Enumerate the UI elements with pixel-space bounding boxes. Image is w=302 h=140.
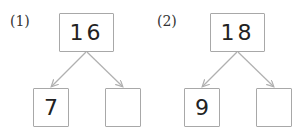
answer-box[interactable] [256, 88, 292, 127]
problem-1: (1) 16 7 [0, 0, 151, 140]
problem-2: (2) 18 9 [151, 0, 302, 140]
answer-box[interactable] [105, 88, 141, 127]
total-box: 18 [210, 13, 265, 52]
total-box: 16 [59, 13, 114, 52]
left-part-box: 9 [184, 88, 220, 127]
left-part-box: 7 [33, 88, 69, 127]
